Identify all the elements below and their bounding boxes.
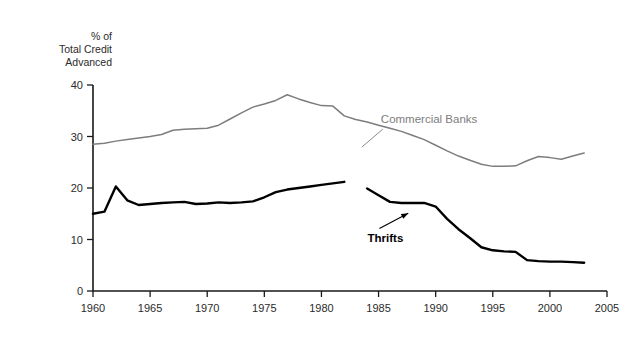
x-axis-tick-label: 1990 [423, 302, 447, 314]
y-axis-tick-label: 20 [71, 182, 83, 194]
y-axis-title-line-1: % of [91, 30, 112, 42]
x-axis-tick-label: 1975 [252, 302, 276, 314]
x-axis-tick-label: 1985 [366, 302, 390, 314]
y-axis-tick-label: 0 [77, 285, 83, 297]
y-axis-title-line-3: Advanced [65, 56, 112, 68]
y-axis-tick-label: 40 [71, 79, 83, 91]
y-axis-title-line-2: Total Credit [59, 43, 112, 55]
line-chart: % of Total Credit Advanced 0102030401960… [0, 0, 644, 340]
chart-container: % of Total Credit Advanced 0102030401960… [0, 0, 644, 340]
series-label-commercial-banks: Commercial Banks [381, 113, 478, 125]
y-axis-tick-label: 30 [71, 131, 83, 143]
series-label-thrifts: Thrifts [368, 232, 404, 244]
x-axis-tick-label: 1980 [309, 302, 333, 314]
x-axis-tick-label: 1970 [195, 302, 219, 314]
x-axis-tick-label: 1965 [138, 302, 162, 314]
x-axis-tick-label: 1995 [481, 302, 505, 314]
x-axis-tick-label: 2005 [595, 302, 619, 314]
y-axis-tick-label: 10 [71, 234, 83, 246]
x-axis-tick-label: 2000 [538, 302, 562, 314]
x-axis-tick-label: 1960 [81, 302, 105, 314]
